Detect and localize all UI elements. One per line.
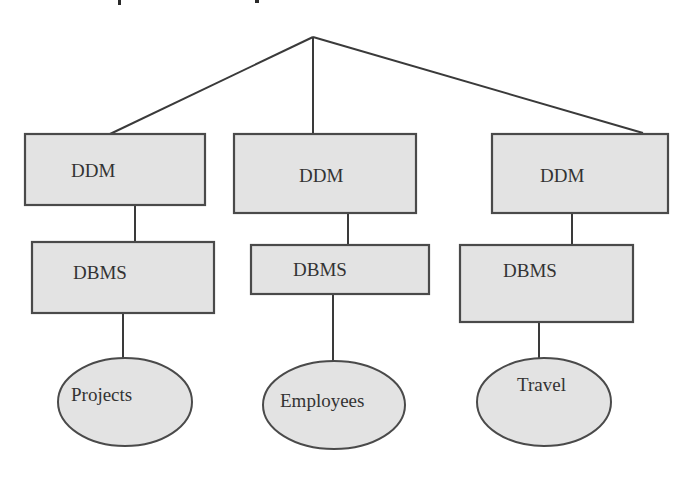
dbms-node: DBMS: [251, 245, 429, 294]
ddm-label: DDM: [71, 160, 115, 181]
column-middle: DDM DBMS Employees: [234, 134, 429, 449]
ddm-node: DDM: [25, 134, 205, 205]
distributed-database-diagram: DDM DBMS Projects DDM DBMS Employees: [0, 0, 692, 480]
root-edges: [110, 37, 643, 134]
dbms-label: DBMS: [73, 262, 127, 283]
dbms-node: DBMS: [32, 242, 214, 313]
dbms-label: DBMS: [293, 259, 347, 280]
database-node-employees: Employees: [263, 361, 405, 449]
ddm-node: DDM: [492, 134, 668, 213]
ddm-label: DDM: [540, 165, 584, 186]
database-node-travel: Travel: [477, 358, 611, 446]
database-node-projects: Projects: [58, 358, 192, 446]
database-label: Travel: [517, 374, 566, 395]
dbms-label: DBMS: [503, 260, 557, 281]
dbms-node: DBMS: [460, 245, 633, 322]
ddm-label: DDM: [299, 165, 343, 186]
ddm-node: DDM: [234, 134, 416, 213]
cropped-caption-fragment: [118, 0, 259, 5]
column-right: DDM DBMS Travel: [460, 134, 668, 446]
edge-root-to-left-ddm: [110, 37, 313, 134]
database-label: Employees: [280, 390, 364, 411]
column-left: DDM DBMS Projects: [25, 134, 214, 446]
database-label: Projects: [71, 384, 132, 405]
edge-root-to-right-ddm: [313, 37, 643, 133]
